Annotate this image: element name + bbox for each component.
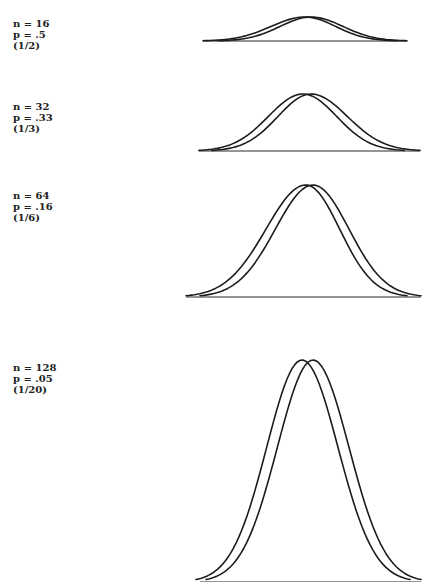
- bell-curve-b: [218, 17, 407, 41]
- bell-curve-b: [212, 94, 420, 150]
- bell-curve-b: [206, 360, 421, 580]
- bell-curve-a: [186, 185, 407, 296]
- bell-curve-a: [199, 94, 404, 150]
- panel-4-plot: [196, 360, 421, 582]
- panel-3-plot: [186, 185, 421, 297]
- bell-curves-figure: [0, 0, 434, 582]
- bell-curve-a: [196, 360, 410, 579]
- bell-curve-a: [203, 17, 397, 41]
- bell-curve-b: [200, 185, 421, 296]
- panel-2-plot: [199, 94, 420, 151]
- panel-1-plot: [203, 17, 407, 41]
